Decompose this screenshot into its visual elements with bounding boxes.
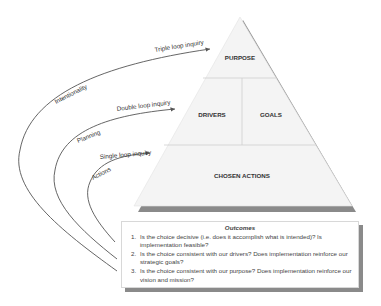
triple-loop-label: Triple loop inquiry <box>154 38 205 54</box>
outcomes-title: Outcomes <box>128 224 352 233</box>
double-loop-label: Double loop inquiry <box>116 98 171 113</box>
pyramid-level-purpose: PURPOSE <box>225 54 255 61</box>
single-loop-label: Single loop inquiry <box>99 148 152 161</box>
outcome-item: Is the choice consistent with our purpos… <box>138 267 352 284</box>
pyramid-level-drivers: DRIVERS <box>198 111 226 118</box>
pyramid-level-goals: GOALS <box>260 111 282 118</box>
outcomes-box: Outcomes Is the choice decisive (i.e. do… <box>121 221 359 288</box>
pyramid-level-chosen-actions: CHOSEN ACTIONS <box>214 172 270 179</box>
outcomes-list: Is the choice decisive (i.e. does it acc… <box>128 233 352 285</box>
intentionality-label: Intentionality <box>53 82 89 106</box>
outcome-item: Is the choice decisive (i.e. does it acc… <box>138 233 352 250</box>
planning-label: Planning <box>76 128 102 145</box>
outcome-item: Is the choice consistent with our driver… <box>138 250 352 267</box>
